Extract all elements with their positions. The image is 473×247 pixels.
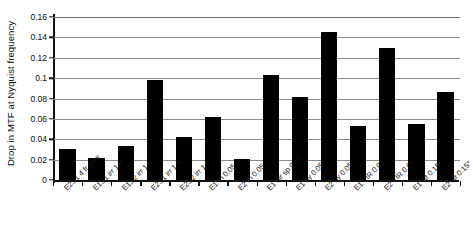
x-axis-tick-mark	[402, 181, 403, 186]
y-axis-tick-mark	[49, 16, 54, 17]
y-axis-tick-label: 0.02	[30, 155, 47, 165]
y-axis-title-text: Drop in MTF at Nyquist frequency	[6, 20, 17, 165]
bar-series	[53, 17, 460, 180]
x-axis-tick-mark	[169, 181, 170, 186]
x-axis-tick-mark	[140, 181, 141, 186]
y-axis-tick-label: 0	[42, 175, 47, 185]
x-axis-tick-mark	[286, 181, 287, 186]
bar	[350, 126, 366, 180]
y-axis-tick-mark	[49, 118, 54, 119]
y-axis-tick-mark	[49, 159, 54, 160]
y-axis-tick-mark	[49, 77, 54, 78]
x-axis-tick-mark	[373, 181, 374, 186]
y-axis-tick-mark	[49, 98, 54, 99]
x-axis-tick-mark	[111, 181, 112, 186]
y-axis-tick-mark	[49, 57, 54, 58]
x-axis-tick-mark	[227, 181, 228, 186]
y-axis-tick-mark	[49, 179, 54, 180]
y-axis-tick-label: 0.16	[30, 12, 47, 22]
y-axis-tick-label: 0.06	[30, 114, 47, 124]
x-axis-tick-mark	[198, 181, 199, 186]
x-axis-tick-mark	[431, 181, 432, 186]
x-axis-tick-mark	[315, 181, 316, 186]
y-axis-tick-mark	[49, 37, 54, 38]
x-axis-tick-mark	[460, 181, 461, 186]
bar	[408, 124, 424, 180]
y-axis-tick-labels: 0.160.140.120.10.080.060.040.020	[22, 0, 50, 186]
y-axis-tick-label: 0.08	[30, 94, 47, 104]
bar	[321, 32, 337, 180]
bar	[205, 117, 221, 180]
y-axis-tick-label: 0.1	[35, 73, 47, 83]
x-axis-tick-mark	[53, 181, 54, 186]
y-axis-tick-label: 0.12	[30, 53, 47, 63]
y-axis-tick-label: 0.14	[30, 32, 47, 42]
y-axis-tick-label: 0.04	[30, 134, 47, 144]
y-axis-title: Drop in MTF at Nyquist frequency	[0, 0, 22, 186]
y-axis-tick-mark	[49, 139, 54, 140]
x-axis-tick-mark	[257, 181, 258, 186]
x-axis-tick-mark	[82, 181, 83, 186]
bar	[263, 75, 279, 180]
x-axis-tick-mark	[344, 181, 345, 186]
x-axis-category-labels: E2S1 4 fr powE1S1 irr 1 frE1S2 irr 1 frE…	[0, 186, 468, 247]
